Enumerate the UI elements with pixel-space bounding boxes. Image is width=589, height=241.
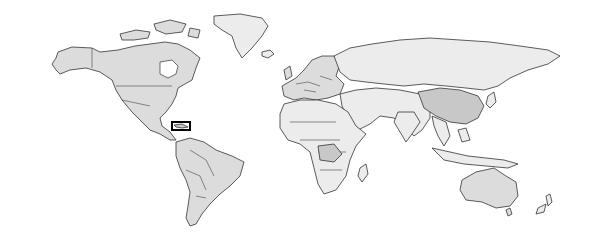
world-map	[0, 0, 589, 241]
